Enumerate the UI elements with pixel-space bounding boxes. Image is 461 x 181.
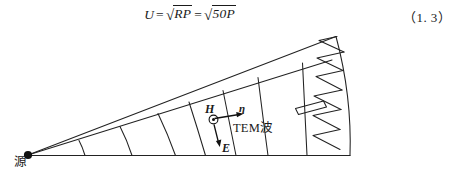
wavefront-arc-2 [120,127,132,156]
sawtooth-tooth-1 [313,130,340,150]
wavefront-arc-3 [158,114,176,156]
page-canvas: U=√RP=√50P （1. 3） [0,0,461,181]
tem-horn-diagram-svg [0,30,461,181]
equation-number: （1. 3） [403,7,451,26]
sawtooth-tooth-5 [317,52,344,71]
h-field-label: H [205,103,214,115]
aperture-arc [336,37,350,156]
wavefront-arc-4 [189,102,206,156]
sawtooth-tooth-3 [314,90,342,110]
upper-outer-edge [28,37,336,156]
equation-equals-second: = [192,7,204,22]
eta-label: η [239,103,245,114]
equation-row: U=√RP=√50P （1. 3） [0,6,461,32]
sawtooth-tooth-2 [313,110,341,130]
equation-expression: U=√RP=√50P [0,6,380,24]
figure-container: 源 H E η TEM波 [0,30,461,181]
tem-wave-label: TEM波 [233,122,273,135]
equation-equals-first: = [154,7,166,22]
radicand-rp: RP [173,5,192,22]
e-field-label: E [222,142,230,154]
sawtooth-tooth-4 [316,71,343,91]
load-resistor-rectangle [296,101,327,115]
radical-50p: √50P [204,6,236,24]
e-field-arrow-icon [214,125,221,148]
h-field-symbol-icon [209,115,218,124]
radicand-50p: 50P [212,5,236,22]
wavefront-arc-6 [258,78,268,156]
wavefront-arc-7 [303,63,308,156]
source-label: 源 [14,156,27,169]
sawtooth-tooth-6 [319,37,344,53]
upper-inner-edge [28,60,332,155]
equation-lhs: U [144,7,154,22]
wavefront-arc-1 [79,141,85,156]
horn-outline-group [28,37,350,156]
radical-rp: √RP [166,6,192,24]
